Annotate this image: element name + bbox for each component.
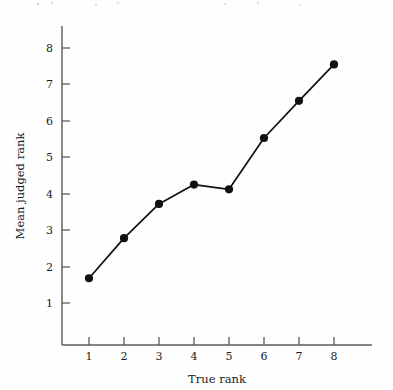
line-chart: 8 7 6 5 4 3 2 1 1 2 3 4 5 6 [0, 0, 393, 390]
data-point-rank-3 [155, 200, 163, 208]
x-tick-label-7: 7 [296, 350, 303, 363]
series-line-mean-judged-rank [89, 64, 334, 278]
y-tick-label-6: 6 [46, 115, 53, 128]
data-point-rank-4 [190, 181, 198, 189]
data-point-rank-8 [330, 60, 338, 68]
y-tick-label-8: 8 [46, 42, 53, 55]
y-axis-ticks [62, 48, 70, 303]
x-tick-label-2: 2 [121, 350, 128, 363]
y-tick-label-5: 5 [46, 151, 53, 164]
y-tick-label-1: 1 [46, 297, 53, 310]
x-tick-label-5: 5 [226, 350, 233, 363]
x-tick-label-6: 6 [261, 350, 268, 363]
data-point-rank-2 [120, 234, 128, 242]
x-tick-label-3: 3 [156, 350, 163, 363]
data-point-rank-5 [225, 185, 233, 193]
x-axis-tick-labels: 1 2 3 4 5 6 7 8 [86, 350, 338, 363]
y-tick-label-3: 3 [46, 224, 53, 237]
chart-page: 8 7 6 5 4 3 2 1 1 2 3 4 5 6 [0, 0, 393, 390]
y-axis-tick-labels: 8 7 6 5 4 3 2 1 [46, 42, 53, 310]
y-axis-title: Mean judged rank [13, 132, 27, 240]
y-tick-label-7: 7 [46, 78, 53, 91]
y-tick-label-4: 4 [46, 188, 53, 201]
data-point-rank-6 [260, 134, 268, 142]
x-axis-ticks [89, 337, 334, 345]
x-tick-label-1: 1 [86, 350, 93, 363]
data-point-rank-1 [85, 274, 93, 282]
x-tick-label-4: 4 [191, 350, 198, 363]
x-tick-label-8: 8 [331, 350, 338, 363]
series-markers [85, 60, 338, 282]
x-axis-title: True rank [188, 372, 247, 386]
data-point-rank-7 [295, 97, 303, 105]
y-tick-label-2: 2 [46, 261, 53, 274]
